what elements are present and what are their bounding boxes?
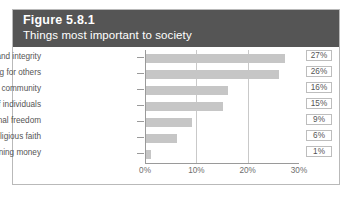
category-label: Personal freedom — [0, 116, 41, 125]
figure-number: Figure 5.8.1 — [23, 13, 339, 28]
x-tick-label: 0% — [132, 166, 158, 175]
category-label: Own honesty and integrity — [0, 52, 41, 61]
category-label: Caring for others — [0, 68, 41, 77]
category-tick — [137, 105, 144, 106]
figure-subtitle: Things most important to society — [23, 28, 339, 43]
value-label: 16% — [306, 82, 332, 93]
figure-header: Figure 5.8.1 Things most important to so… — [13, 10, 339, 47]
category-label: Sense of community — [0, 84, 41, 93]
plot-area — [145, 50, 299, 163]
bar — [146, 54, 285, 63]
category-label: Religious faith — [0, 132, 41, 141]
category-tick — [137, 137, 144, 138]
value-label: 6% — [306, 130, 332, 141]
value-label: 9% — [306, 114, 332, 125]
x-axis-line — [145, 163, 299, 164]
bar — [146, 118, 192, 127]
value-label: 26% — [306, 66, 332, 77]
x-tick-label: 20% — [235, 166, 261, 175]
chart-plot: Own honesty and integrityCaring for othe… — [13, 47, 339, 186]
category-tick — [137, 89, 144, 90]
category-tick — [137, 121, 144, 122]
category-tick — [137, 73, 144, 74]
category-tick — [137, 57, 144, 58]
category-label: Value of individuals — [0, 100, 41, 109]
value-label: 27% — [306, 50, 332, 61]
bar — [146, 102, 223, 111]
value-label: 1% — [306, 146, 332, 157]
category-tick — [137, 153, 144, 154]
x-tick-label: 10% — [183, 166, 209, 175]
bar — [146, 150, 151, 159]
value-label: 15% — [306, 98, 332, 109]
bar — [146, 70, 279, 79]
bar — [146, 86, 228, 95]
category-label: Gaining money — [0, 148, 41, 157]
x-tick-label: 30% — [286, 166, 312, 175]
gridline — [248, 50, 249, 163]
bar — [146, 134, 177, 143]
figure-frame: Figure 5.8.1 Things most important to so… — [12, 9, 340, 185]
